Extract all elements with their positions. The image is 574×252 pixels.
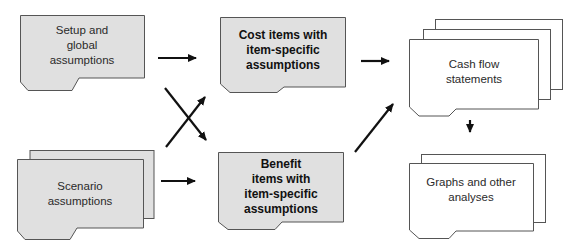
arrow-benefit-to-cashflow <box>355 104 393 152</box>
arrow-setup-to-benefit <box>165 88 206 140</box>
connector-arrows <box>0 0 574 252</box>
arrow-scenario-to-cost <box>166 97 205 147</box>
